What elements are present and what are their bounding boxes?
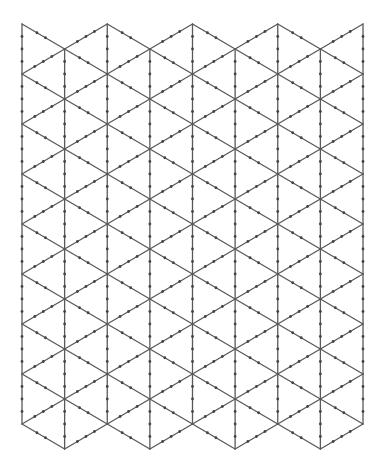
tick-dot (93, 430, 96, 433)
tick-dot (161, 290, 164, 293)
tick-dot (306, 155, 309, 158)
tick-dot (63, 223, 66, 226)
tick-dot (106, 298, 109, 301)
tick-dot (172, 361, 175, 364)
tick-dot (63, 335, 66, 338)
tick-dot (191, 110, 194, 113)
tick-dot (249, 256, 252, 259)
tick-dot (349, 130, 352, 133)
tick-dot (276, 235, 279, 238)
tick-dot (78, 356, 81, 359)
tick-dot (332, 390, 335, 393)
tick-dot (334, 306, 337, 309)
tick-dot (63, 110, 66, 113)
tick-dot (191, 335, 194, 338)
tick-dot (334, 56, 337, 59)
tick-dot (221, 105, 224, 108)
tick-dot (21, 198, 24, 201)
tick-dot (276, 98, 279, 101)
falling_diagonal-line (320, 199, 363, 224)
tick-dot (212, 410, 215, 413)
tick-dot (127, 160, 130, 163)
tick-dot (106, 248, 109, 251)
tick-dot (172, 411, 175, 414)
tick-dot (163, 356, 166, 359)
falling_diagonal-line (107, 324, 150, 349)
tick-dot (342, 261, 345, 264)
falling_diagonal-line (193, 174, 236, 199)
falling_diagonal-line (65, 399, 108, 424)
tick-dot (148, 123, 151, 126)
tick-dot (63, 435, 66, 438)
tick-dot (249, 156, 252, 159)
tick-dot (319, 85, 322, 88)
falling_diagonal-line (22, 324, 65, 349)
tick-dot (87, 111, 90, 114)
tick-dot (136, 155, 139, 158)
tick-dot (33, 215, 36, 218)
tick-dot (249, 356, 252, 359)
tick-dot (33, 165, 36, 168)
tick-dot (319, 260, 322, 263)
tick-dot (106, 48, 109, 51)
tick-dot (93, 30, 96, 33)
tick-dot (289, 65, 292, 68)
tick-dot (63, 273, 66, 276)
tick-dot (119, 265, 122, 268)
tick-dot (129, 136, 132, 139)
tick-dot (127, 360, 130, 363)
tick-dot (306, 305, 309, 308)
tick-dot (289, 165, 292, 168)
tick-dot (300, 186, 303, 189)
tick-dot (191, 35, 194, 38)
falling_diagonal-line (320, 149, 363, 174)
tick-dot (340, 35, 343, 38)
tick-dot (136, 405, 139, 408)
tick-dot (21, 398, 24, 401)
tick-dot (21, 360, 24, 363)
falling_diagonal-line (235, 299, 278, 324)
falling_diagonal-line (320, 399, 363, 424)
tick-dot (332, 90, 335, 93)
tick-dot (87, 211, 90, 214)
tick-dot (257, 61, 260, 64)
tick-dot (206, 81, 209, 84)
tick-dot (332, 290, 335, 293)
tick-dot (63, 160, 66, 163)
tick-dot (191, 210, 194, 213)
tick-dot (362, 335, 365, 338)
tick-dot (212, 260, 215, 263)
tick-dot (76, 390, 79, 393)
tick-dot (121, 231, 124, 234)
tick-dot (44, 336, 47, 339)
tick-dot (148, 335, 151, 338)
tick-dot (342, 411, 345, 414)
tick-dot (170, 185, 173, 188)
tick-dot (215, 36, 218, 39)
tick-dot (148, 373, 151, 376)
tick-dot (332, 340, 335, 343)
tick-dot (76, 340, 79, 343)
tick-dot (148, 435, 151, 438)
tick-dot (85, 335, 88, 338)
falling_diagonal-line (278, 24, 321, 49)
tick-dot (221, 55, 224, 58)
tick-dot (106, 98, 109, 101)
tick-dot (42, 310, 45, 313)
tick-dot (76, 90, 79, 93)
tick-dot (319, 235, 322, 238)
tick-dot (319, 160, 322, 163)
tick-dot (264, 180, 267, 183)
tick-dot (206, 281, 209, 284)
tick-dot (21, 260, 24, 263)
tick-dot (257, 111, 260, 114)
tick-dot (121, 281, 124, 284)
tick-dot (342, 311, 345, 314)
tick-dot (255, 385, 258, 388)
tick-dot (172, 161, 175, 164)
tick-dot (44, 186, 47, 189)
tick-dot (129, 186, 132, 189)
tick-dot (276, 410, 279, 413)
tick-dot (21, 410, 24, 413)
tick-dot (249, 206, 252, 209)
